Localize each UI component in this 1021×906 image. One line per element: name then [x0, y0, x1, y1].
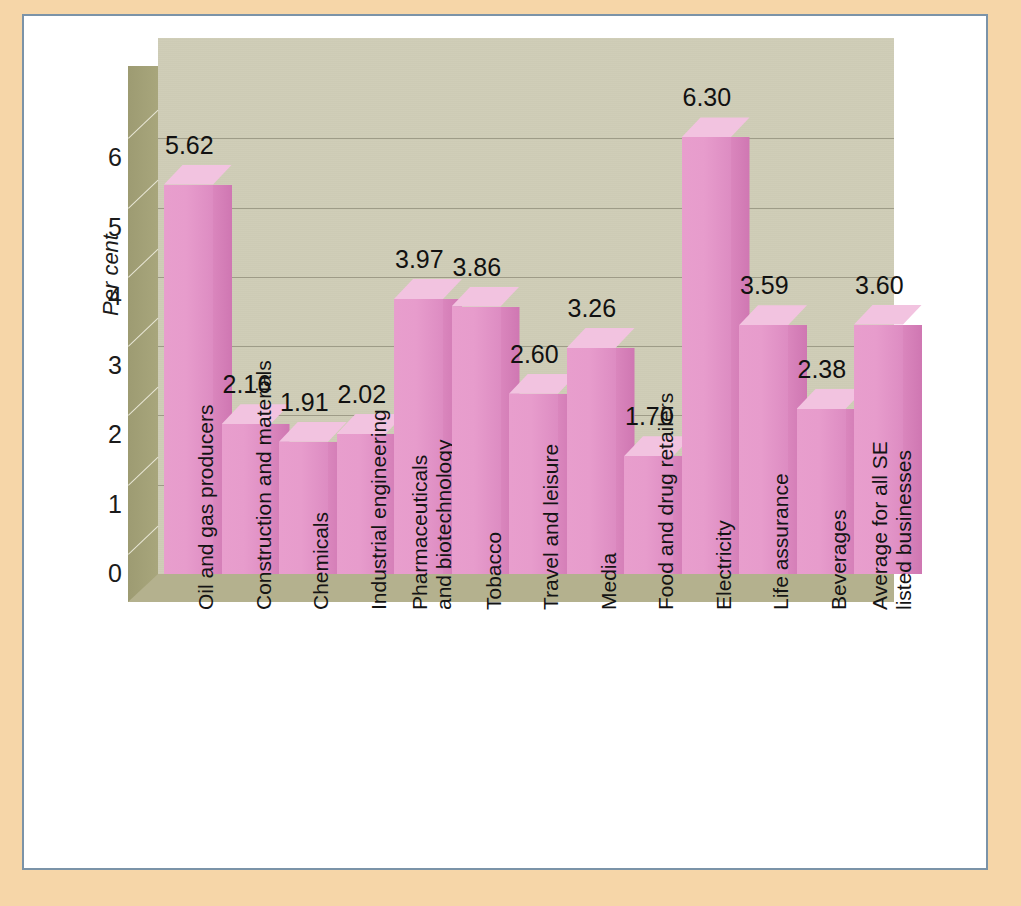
- bar-value-label: 2.02: [338, 382, 387, 407]
- bar-value-label: 3.86: [453, 255, 502, 280]
- x-category-label-line: Beverages: [827, 510, 851, 610]
- x-category-label: Industrial engineering: [367, 409, 391, 610]
- bar-series: 5.62Oil and gas producers2.16Constructio…: [24, 16, 990, 872]
- bar-top-face: [164, 165, 232, 185]
- x-category-label: Life assurance: [769, 473, 793, 610]
- bar-value-label: 2.60: [510, 342, 559, 367]
- bar-value-label: 6.30: [683, 85, 732, 110]
- x-category-label-line: Pharmaceuticals: [408, 440, 432, 610]
- x-category-label-line: Industrial engineering: [367, 409, 391, 610]
- bar-top-face: [452, 287, 520, 307]
- x-category-label-line: Travel and leisure: [539, 444, 563, 610]
- bar-top-face: [682, 117, 750, 137]
- x-category-label-line: Media: [597, 553, 621, 610]
- bar-top-face: [567, 328, 635, 348]
- x-category-label-line: Average for all SE: [868, 441, 892, 610]
- x-category-label: Average for all SElisted businesses: [868, 441, 915, 610]
- x-category-label-line: Oil and gas producers: [194, 405, 218, 610]
- x-category-label: Tobacco: [482, 532, 506, 610]
- chart-stage: 0123456 Per cent 5.62Oil and gas produce…: [24, 16, 990, 872]
- bar-value-label: 5.62: [165, 133, 214, 158]
- bar-value-label: 3.59: [740, 273, 789, 298]
- bar-front-face: [682, 137, 731, 574]
- bar-value-label: 3.97: [395, 247, 444, 272]
- bar-top-face: [854, 305, 922, 325]
- chart-card: 0123456 Per cent 5.62Oil and gas produce…: [22, 14, 988, 870]
- x-category-label-line: Tobacco: [482, 532, 506, 610]
- x-category-label-line: Electricity: [712, 520, 736, 610]
- x-category-label: Pharmaceuticalsand biotechnology: [408, 440, 455, 610]
- bar-column[interactable]: [682, 117, 731, 574]
- x-category-label: Chemicals: [309, 512, 333, 610]
- bar-front-face: [567, 348, 616, 574]
- x-category-label-line: Food and drug retailers: [654, 393, 678, 610]
- page-root: 0123456 Per cent 5.62Oil and gas produce…: [0, 0, 1021, 906]
- x-category-label: Media: [597, 553, 621, 610]
- bar-column[interactable]: [567, 328, 616, 574]
- x-category-label: Travel and leisure: [539, 444, 563, 610]
- x-category-label: Beverages: [827, 510, 851, 610]
- bar-top-face: [739, 305, 807, 325]
- x-category-label-line: Life assurance: [769, 473, 793, 610]
- x-category-label-line: listed businesses: [892, 441, 916, 610]
- bar-value-label: 3.60: [855, 273, 904, 298]
- x-category-label: Food and drug retailers: [654, 393, 678, 610]
- x-category-label-line: Chemicals: [309, 512, 333, 610]
- x-category-label: Oil and gas producers: [194, 405, 218, 610]
- bar-value-label: 1.91: [280, 390, 329, 415]
- bar-value-label: 2.38: [798, 357, 847, 382]
- bar-value-label: 3.26: [568, 296, 617, 321]
- x-category-label: Construction and materials: [252, 360, 276, 610]
- x-category-label: Electricity: [712, 520, 736, 610]
- x-category-label-line: Construction and materials: [252, 360, 276, 610]
